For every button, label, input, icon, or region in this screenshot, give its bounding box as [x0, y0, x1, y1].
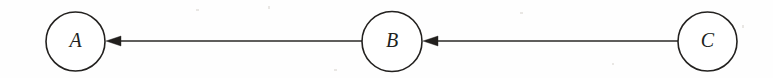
node-c-label: C [701, 29, 715, 51]
node-c[interactable]: C [678, 12, 737, 71]
node-b[interactable]: B [362, 12, 422, 72]
edge-c-to-b[interactable] [423, 36, 678, 46]
graph-diagram-canvas: A B C [0, 0, 773, 78]
graph-svg: A B C [0, 0, 773, 78]
node-b-label: B [386, 29, 398, 51]
edge-c-to-b-arrowhead [423, 36, 438, 46]
edge-b-to-a-arrowhead [106, 36, 121, 46]
node-a[interactable]: A [46, 12, 105, 71]
node-a-label: A [67, 29, 82, 51]
edge-b-to-a[interactable] [106, 36, 362, 46]
